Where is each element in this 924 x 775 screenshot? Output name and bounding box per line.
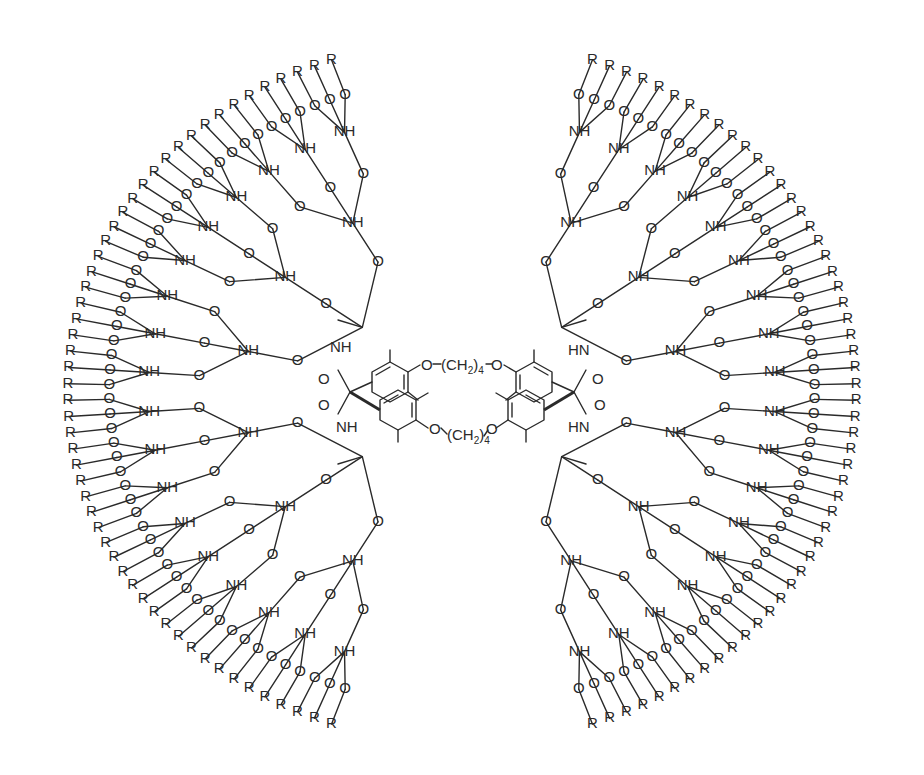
terminal-r-group: R	[127, 575, 138, 592]
terminal-r-group: R	[127, 189, 138, 206]
ether-oxygen: O	[191, 174, 203, 191]
ether-oxygen: O	[620, 351, 632, 368]
terminal-r-group: R	[71, 309, 82, 326]
svg-text:O: O	[491, 356, 503, 373]
svg-text:NH: NH	[330, 338, 352, 355]
terminal-r-group: R	[838, 471, 849, 488]
svg-text:O: O	[421, 356, 433, 373]
terminal-r-group: R	[764, 162, 775, 179]
ether-oxygen: O	[540, 512, 552, 529]
ether-oxygen: O	[808, 404, 820, 421]
amide-nh: NH	[560, 551, 582, 568]
ether-oxygen: O	[714, 431, 726, 448]
linker-top: O (CH2)4 O	[421, 356, 503, 376]
ether-oxygen: O	[181, 185, 193, 202]
terminal-r-group: R	[604, 56, 615, 73]
ether-oxygen: O	[592, 470, 604, 487]
terminal-r-group: R	[65, 341, 76, 358]
ether-oxygen: O	[807, 345, 819, 362]
ether-oxygen: O	[647, 647, 659, 664]
terminal-r-group: R	[63, 357, 74, 374]
terminal-r-group: R	[62, 390, 73, 407]
terminal-r-group: R	[587, 714, 598, 731]
ether-oxygen: O	[226, 143, 238, 160]
ether-oxygen: O	[573, 679, 585, 696]
ether-oxygen: O	[209, 462, 221, 479]
ether-oxygen: O	[618, 662, 630, 679]
terminal-r-group: R	[827, 502, 838, 519]
terminal-r-group: R	[776, 589, 787, 606]
terminal-r-group: R	[727, 126, 738, 143]
ether-oxygen: O	[266, 647, 278, 664]
terminal-r-group: R	[740, 137, 751, 154]
svg-text:O: O	[486, 420, 498, 437]
terminal-r-group: R	[654, 77, 665, 94]
terminal-r-group: R	[259, 77, 270, 94]
terminal-r-group: R	[833, 487, 844, 504]
terminal-r-group: R	[638, 69, 649, 86]
terminal-r-group: R	[149, 162, 160, 179]
terminal-r-group: R	[309, 708, 320, 725]
svg-text:O: O	[592, 370, 604, 387]
ether-oxygen: O	[199, 333, 211, 350]
dendrimer-structure-diagram: ONHONHORORORONHORORORONHORORORONHONHOROR…	[0, 0, 924, 775]
ether-oxygen: O	[320, 294, 332, 311]
ether-oxygen: O	[252, 125, 264, 142]
ether-oxygen: O	[325, 585, 337, 602]
methyl-bond	[496, 393, 508, 400]
ether-oxygen: O	[292, 351, 304, 368]
amide-nh: NH	[764, 362, 786, 379]
svg-text:O: O	[318, 396, 330, 413]
terminal-r-group: R	[229, 95, 240, 112]
terminal-r-group: R	[244, 678, 255, 695]
terminal-r-group: R	[292, 702, 303, 719]
ether-oxygen: O	[710, 163, 722, 180]
ether-oxygen: O	[199, 431, 211, 448]
ether-oxygen: O	[618, 197, 630, 214]
ether-oxygen: O	[339, 679, 351, 696]
terminal-r-group: R	[776, 175, 787, 192]
svg-text:O: O	[318, 370, 330, 387]
terminal-r-group: R	[292, 62, 303, 79]
ether-oxygen: O	[309, 668, 321, 685]
svg-text:(CH2)4: (CH2)4	[441, 356, 484, 376]
amide-nh: NH	[238, 423, 260, 440]
linker-bottom: O (CH2)4 O	[429, 420, 498, 446]
ether-oxygen: O	[645, 219, 657, 236]
ether-oxygen: O	[588, 674, 600, 691]
terminal-r-group: R	[161, 614, 172, 631]
terminal-r-group: R	[820, 518, 831, 535]
terminal-r-group: R	[68, 325, 79, 342]
terminal-r-group: R	[846, 325, 857, 342]
terminal-r-group: R	[161, 149, 172, 166]
amide-nh: NH	[156, 478, 178, 495]
ether-oxygen: O	[703, 462, 715, 479]
terminal-r-group: R	[850, 407, 861, 424]
aryl-ring-bottom-left	[380, 390, 416, 430]
terminal-r-group: R	[229, 669, 240, 686]
terminal-r-group: R	[820, 246, 831, 263]
terminal-r-group: R	[764, 602, 775, 619]
terminal-r-group: R	[842, 455, 853, 472]
terminal-r-group: R	[214, 105, 225, 122]
terminal-r-group: R	[699, 659, 710, 676]
amide-nh: NH	[174, 513, 196, 530]
terminal-r-group: R	[604, 708, 615, 725]
terminal-r-group: R	[669, 86, 680, 103]
ether-oxygen: O	[592, 294, 604, 311]
terminal-r-group: R	[62, 374, 73, 391]
terminal-r-group: R	[80, 487, 91, 504]
terminal-r-group: R	[173, 626, 184, 643]
terminal-r-group: R	[621, 62, 632, 79]
terminal-r-group: R	[851, 374, 862, 391]
terminal-r-group: R	[796, 202, 807, 219]
terminal-r-group: R	[850, 357, 861, 374]
terminal-r-group: R	[68, 439, 79, 456]
ether-oxygen: O	[808, 360, 820, 377]
aryl-ring-bottom-right	[508, 390, 544, 430]
ether-oxygen: O	[669, 244, 681, 261]
terminal-r-group: R	[846, 439, 857, 456]
amide-nh: NH	[665, 423, 687, 440]
ether-oxygen: O	[358, 600, 370, 617]
terminal-r-group: R	[848, 341, 859, 358]
